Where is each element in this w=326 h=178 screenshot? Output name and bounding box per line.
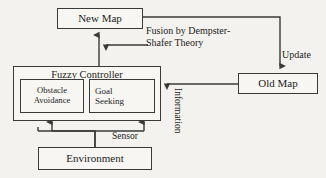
fusion-line-1: Fusion by Dempster- bbox=[146, 25, 230, 36]
node-goal-seeking[interactable]: Goal Seeking bbox=[89, 79, 155, 113]
edge-label-fusion: Fusion by Dempster- Shafer Theory bbox=[146, 25, 258, 49]
fusion-line-2: Shafer Theory bbox=[146, 37, 258, 49]
block-diagram: New Map Old Map Fuzzy Controller Obstacl… bbox=[0, 0, 326, 178]
goal-seeking-line-1: Goal bbox=[95, 86, 124, 96]
node-old-map-label: Old Map bbox=[258, 77, 297, 89]
goal-seeking-line-2: Seeking bbox=[95, 96, 124, 106]
node-old-map[interactable]: Old Map bbox=[238, 73, 318, 94]
edge-label-sensor: Sensor bbox=[112, 131, 138, 142]
node-environment[interactable]: Environment bbox=[38, 147, 152, 170]
edge-label-information: Information bbox=[172, 88, 183, 146]
node-new-map-label: New Map bbox=[78, 12, 122, 24]
node-goal-seeking-label: Goal Seeking bbox=[95, 86, 124, 106]
edge-label-update: Update bbox=[282, 49, 311, 61]
edge-environment-trunk bbox=[38, 131, 95, 147]
node-obstacle-avoidance[interactable]: Obstacle Avoidance bbox=[20, 79, 84, 113]
node-new-map[interactable]: New Map bbox=[57, 8, 143, 29]
obstacle-avoidance-line-2: Avoidance bbox=[34, 96, 71, 106]
node-environment-label: Environment bbox=[66, 152, 123, 164]
node-obstacle-avoidance-label: Obstacle Avoidance bbox=[34, 86, 71, 105]
